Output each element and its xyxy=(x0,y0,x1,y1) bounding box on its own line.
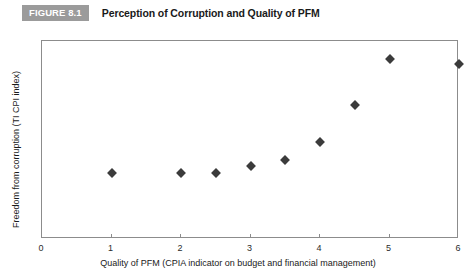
x-tick-mark xyxy=(180,234,181,238)
x-tick-mark xyxy=(250,234,251,238)
x-tick-label: 0 xyxy=(38,243,43,253)
x-tick-mark xyxy=(319,234,320,238)
x-tick-label: 1 xyxy=(108,243,113,253)
figure-header: FIGURE 8.1 Perception of Corruption and … xyxy=(22,5,320,21)
data-point xyxy=(107,168,117,178)
plot-area xyxy=(41,40,458,238)
x-tick-mark xyxy=(111,234,112,238)
figure-title: Perception of Corruption and Quality of … xyxy=(102,7,320,19)
data-point xyxy=(385,54,395,64)
data-point xyxy=(246,161,256,171)
x-tick-mark xyxy=(389,234,390,238)
x-tick-label: 4 xyxy=(316,243,321,253)
data-point xyxy=(315,137,325,147)
x-tick-label: 2 xyxy=(177,243,182,253)
data-point xyxy=(454,59,464,69)
x-tick-label: 6 xyxy=(455,243,460,253)
data-point xyxy=(211,168,221,178)
figure-number-badge: FIGURE 8.1 xyxy=(22,5,89,21)
figure-container: FIGURE 8.1 Perception of Corruption and … xyxy=(0,0,476,276)
x-tick-label: 3 xyxy=(247,243,252,253)
y-axis-title: Freedom from corruption (TI CPI index) xyxy=(11,71,21,228)
data-point xyxy=(350,100,360,110)
data-point xyxy=(176,168,186,178)
x-axis-title: Quality of PFM (CPIA indicator on budget… xyxy=(0,258,476,268)
data-point xyxy=(280,155,290,165)
x-tick-label: 5 xyxy=(386,243,391,253)
